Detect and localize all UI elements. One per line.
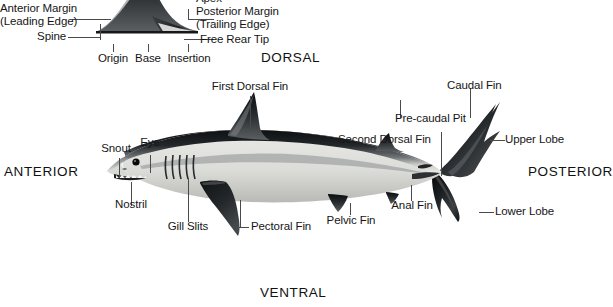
leader-anterior-margin — [72, 19, 111, 20]
label-caudal-fin: Caudal Fin — [447, 79, 502, 93]
leader-eye — [150, 155, 151, 173]
leader-upper-lobe — [490, 140, 505, 141]
shark-illustration — [96, 78, 544, 236]
leader-gill-slits — [188, 178, 189, 222]
leader-pectoral-fin-vert — [240, 200, 241, 228]
leader-lower-lobe — [479, 212, 494, 213]
leader-insertion — [188, 44, 189, 52]
leader-snout — [119, 158, 120, 178]
label-posterior-margin-alt: (Trailing Edge) — [196, 18, 270, 32]
label-dorsal: DORSAL — [261, 50, 320, 65]
label-nostril: Nostril — [101, 198, 161, 212]
label-lower-lobe: Lower Lobe — [495, 205, 554, 219]
fin-terminology-inset — [92, 0, 210, 50]
leader-spine — [68, 37, 100, 38]
label-pre-caudal-pit: Pre-caudal Pit — [395, 112, 466, 126]
label-second-dorsal-fin: Second Dorsal Fin — [338, 133, 431, 147]
label-anterior: ANTERIOR — [4, 164, 79, 179]
leader-base — [148, 44, 149, 52]
label-gill-slits: Gill Slits — [157, 220, 219, 234]
leader-pectoral-fin — [236, 227, 249, 228]
label-posterior-margin: Posterior Margin — [196, 5, 279, 19]
leader-origin — [113, 44, 114, 52]
leader-first-dorsal-fin — [250, 96, 251, 132]
leader-pre-caudal-pit — [441, 132, 442, 176]
label-pelvic-fin: Pelvic Fin — [323, 214, 379, 228]
label-free-rear-tip: Free Rear Tip — [200, 33, 269, 47]
label-anterior-margin: Anterior Margin — [0, 2, 72, 16]
label-insertion: Insertion — [163, 52, 215, 66]
leader-spine-vert — [100, 24, 101, 40]
label-eye: Eye — [128, 136, 172, 150]
label-spine: Spine — [0, 30, 66, 44]
label-anal-fin: Anal Fin — [386, 199, 438, 213]
label-pectoral-fin: Pectoral Fin — [251, 220, 311, 234]
leader-caudal-fin — [470, 88, 471, 118]
label-first-dorsal-fin: First Dorsal Fin — [205, 80, 295, 94]
label-ventral: VENTRAL — [260, 285, 326, 300]
label-upper-lobe: Upper Lobe — [505, 133, 564, 147]
label-anterior-margin-alt: (Leading Edge) — [0, 15, 72, 29]
leader-apex-vert — [188, 9, 189, 20]
